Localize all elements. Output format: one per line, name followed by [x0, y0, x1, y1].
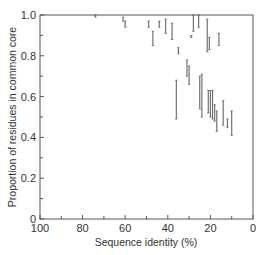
x-tick-label: 80: [76, 222, 88, 234]
x-axis-ticks: 100806040200: [31, 215, 256, 234]
error-bar: [94, 15, 96, 17]
error-bar: [199, 76, 201, 109]
plot-frame: [40, 15, 253, 219]
error-bar: [190, 35, 192, 37]
error-bar: [209, 90, 211, 117]
error-bar: [208, 37, 210, 49]
x-tick-label: 40: [162, 222, 174, 234]
error-bar: [192, 15, 194, 31]
error-bar: [188, 66, 190, 84]
x-tick-label: 0: [250, 222, 256, 234]
error-bar: [197, 15, 199, 27]
error-bar: [211, 90, 213, 119]
x-tick-label: 20: [204, 222, 216, 234]
y-tick-label: 0.8: [21, 50, 36, 62]
y-tick-label: 0.4: [21, 131, 36, 143]
error-bar: [213, 105, 215, 121]
error-bar: [164, 19, 166, 33]
error-bar: [206, 19, 208, 52]
error-bar: [171, 23, 173, 39]
error-bars: [94, 15, 233, 135]
x-axis-label: Sequence identity (%): [95, 236, 198, 248]
error-bar: [175, 80, 177, 119]
error-bar: [124, 21, 126, 27]
y-axis-label: Proportion of residues in common core: [6, 27, 18, 207]
error-bar: [231, 111, 233, 135]
error-bar: [158, 21, 160, 27]
x-tick-label: 100: [31, 222, 49, 234]
y-tick-label: 0.2: [21, 172, 36, 184]
error-bar: [222, 101, 224, 125]
error-bar: [216, 111, 218, 131]
error-bar: [226, 119, 228, 127]
y-axis-ticks: 00.20.40.60.81.0: [21, 9, 44, 225]
error-bar-chart: 00.20.40.60.81.0 100806040200 Sequence i…: [0, 0, 262, 255]
y-tick-label: 1.0: [21, 9, 36, 21]
error-bar: [122, 17, 124, 21]
x-tick-label: 60: [119, 222, 131, 234]
error-bar: [147, 21, 149, 27]
error-bar: [207, 90, 209, 112]
plot-border: [40, 15, 253, 219]
y-tick-label: 0.6: [21, 91, 36, 103]
error-bar: [177, 48, 179, 54]
error-bar: [201, 74, 203, 117]
error-bar: [152, 31, 154, 45]
error-bar: [186, 60, 188, 76]
error-bar: [218, 33, 220, 45]
